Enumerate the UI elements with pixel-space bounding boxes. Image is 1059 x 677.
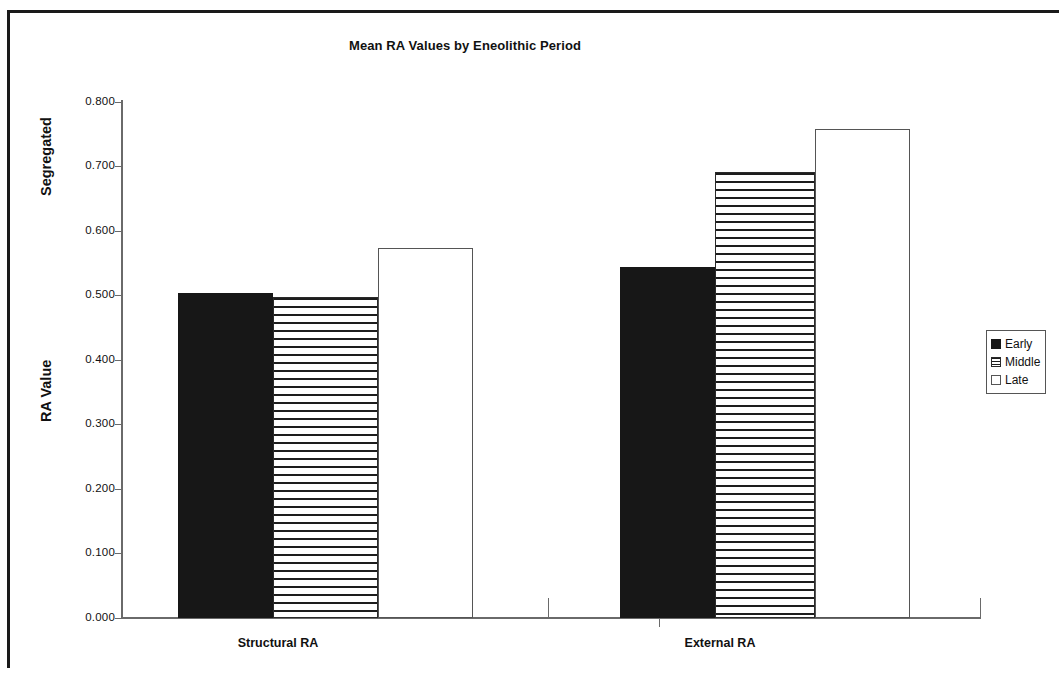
bar-external-early[interactable]	[620, 267, 715, 618]
bar-structural-late[interactable]	[378, 248, 473, 618]
y-tick-label: 0.400	[57, 353, 115, 365]
x-category-label-external: External RA	[625, 636, 815, 650]
legend-label: Middle	[1005, 355, 1040, 369]
axis-label-segregated: Segregated	[38, 117, 54, 196]
y-tick-label: 0.100	[57, 546, 115, 558]
y-tick-label: 0.600	[57, 224, 115, 236]
bar-external-middle[interactable]	[715, 172, 815, 618]
axis-label-ra-value: RA Value	[38, 360, 54, 422]
y-tick-label: 0.000	[57, 611, 115, 623]
bar-structural-early[interactable]	[178, 293, 273, 618]
y-tick-mark	[115, 102, 121, 103]
legend-label: Late	[1005, 373, 1028, 387]
y-tick-mark	[115, 424, 121, 425]
legend-swatch-solid-icon	[991, 339, 1001, 349]
legend-item-late[interactable]: Late	[991, 371, 1040, 389]
legend-label: Early	[1005, 337, 1032, 351]
y-tick-label: 0.200	[57, 482, 115, 494]
legend-item-middle[interactable]: Middle	[991, 353, 1040, 371]
chart-title: Mean RA Values by Eneolithic Period	[0, 38, 930, 53]
y-tick-mark	[115, 489, 121, 490]
y-tick-mark	[115, 618, 121, 619]
legend-item-early[interactable]: Early	[991, 335, 1040, 353]
y-tick-mark	[115, 231, 121, 232]
bar-structural-middle[interactable]	[273, 297, 378, 618]
y-tick-label: 0.500	[57, 288, 115, 300]
scanned-chart-page: Mean RA Values by Eneolithic Period Segr…	[0, 0, 1059, 677]
legend-swatch-striped-icon	[991, 357, 1001, 367]
y-tick-label: 0.700	[57, 159, 115, 171]
y-tick-mark	[115, 360, 121, 361]
x-axis-minor-tick	[659, 619, 660, 627]
bar-external-late[interactable]	[815, 129, 910, 618]
y-tick-label: 0.300	[57, 417, 115, 429]
plot-area	[122, 102, 980, 618]
y-tick-mark	[115, 166, 121, 167]
bar-chart: Mean RA Values by Eneolithic Period Segr…	[0, 0, 1059, 677]
y-tick-mark	[115, 553, 121, 554]
x-axis-separator	[980, 598, 981, 618]
legend-swatch-empty-icon	[991, 375, 1001, 385]
y-tick-mark	[115, 295, 121, 296]
y-tick-label: 0.800	[57, 95, 115, 107]
x-category-label-structural: Structural RA	[183, 636, 373, 650]
chart-legend: Early Middle Late	[986, 330, 1046, 394]
